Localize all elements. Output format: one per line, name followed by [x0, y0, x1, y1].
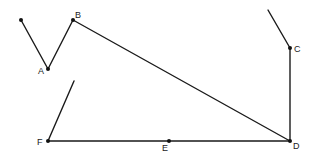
labeled-points: [19, 18, 292, 143]
label-f: F: [37, 137, 43, 147]
point-c: [288, 46, 292, 50]
line-segment: [268, 10, 290, 48]
point-endpoint: [19, 18, 23, 22]
line-segment: [21, 20, 48, 69]
label-d: D: [293, 141, 300, 151]
point-a: [46, 67, 50, 71]
line-segment: [48, 81, 74, 141]
point-d: [288, 139, 292, 143]
label-c: C: [294, 44, 301, 54]
line-segment: [48, 20, 73, 69]
label-b: B: [75, 10, 81, 20]
point-labels: ABCDEF: [37, 10, 301, 153]
label-a: A: [38, 66, 44, 76]
geometry-diagram: ABCDEF: [0, 0, 317, 162]
line-segment: [73, 20, 290, 141]
line-segments: [21, 10, 290, 141]
point-f: [46, 139, 50, 143]
label-e: E: [162, 143, 168, 153]
